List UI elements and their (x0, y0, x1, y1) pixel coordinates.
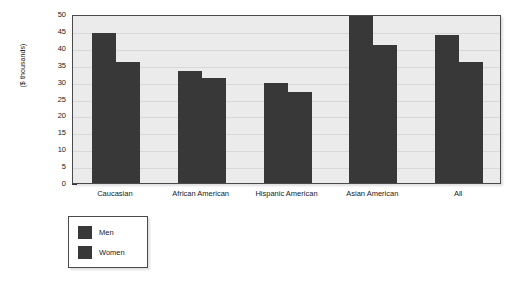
y-tick-label: 20 (44, 112, 66, 120)
bar-men-african-american (178, 71, 202, 183)
bar-women-hispanic-american (288, 92, 312, 183)
y-tick-label: 0 (44, 180, 66, 188)
gridline (73, 33, 500, 34)
bar-chart-figure: ($ thousands) 05101520253035404550 Cauca… (0, 0, 527, 282)
bar-men-asian-american (349, 16, 373, 183)
y-tick-label: 15 (44, 129, 66, 137)
plot-area (72, 15, 501, 184)
x-category-label: All (398, 189, 518, 198)
bar-women-asian-american (373, 45, 397, 183)
legend-label-women: Women (99, 248, 125, 257)
y-tick-label: 25 (44, 96, 66, 104)
bar-women-all (459, 62, 483, 183)
y-axis-title: ($ thousands) (19, 21, 26, 111)
y-tick-mark (72, 184, 77, 185)
y-tick-label: 40 (44, 45, 66, 53)
y-tick-label: 10 (44, 146, 66, 154)
legend-swatch-women (78, 246, 92, 259)
bar-women-caucasian (116, 62, 140, 183)
y-tick-label: 50 (44, 11, 66, 19)
chart-legend: Men Women (68, 216, 148, 268)
y-tick-label: 5 (44, 163, 66, 171)
y-tick-label: 35 (44, 62, 66, 70)
bar-women-african-american (202, 78, 226, 183)
bar-men-all (435, 35, 459, 183)
y-tick-label: 30 (44, 79, 66, 87)
legend-swatch-men (78, 226, 92, 239)
bar-men-hispanic-american (264, 83, 288, 183)
legend-label-men: Men (99, 228, 114, 237)
y-axis-tick-labels: 05101520253035404550 (40, 0, 66, 282)
bar-men-caucasian (92, 33, 116, 183)
y-tick-label: 45 (44, 28, 66, 36)
